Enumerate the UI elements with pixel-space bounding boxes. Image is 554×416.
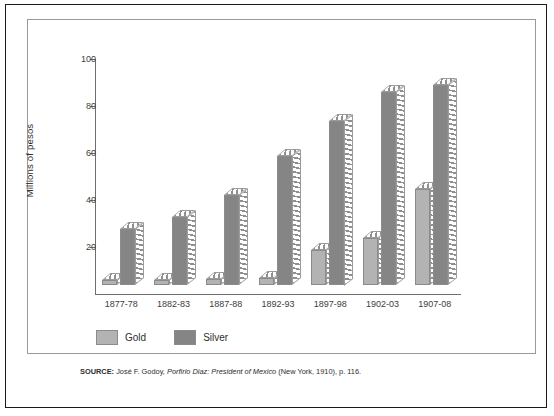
bar-gold-1882-83 bbox=[154, 280, 169, 285]
bar-face bbox=[277, 156, 292, 285]
bar-face bbox=[102, 280, 117, 285]
y-tick-label: 60 bbox=[56, 149, 96, 158]
bar-side-shadow bbox=[292, 149, 301, 285]
x-tick-label: 1897-98 bbox=[304, 299, 356, 310]
bar-silver-1877-78 bbox=[120, 229, 135, 285]
bar-face bbox=[120, 229, 135, 285]
bar-face bbox=[363, 238, 378, 285]
x-tick-label: 1902-03 bbox=[356, 299, 408, 310]
legend-label: Silver bbox=[203, 332, 228, 343]
legend-swatch-silver bbox=[174, 330, 196, 345]
bar-face bbox=[206, 279, 221, 285]
chart-legend: GoldSilver bbox=[96, 330, 228, 345]
y-tick-label-text: 20 bbox=[70, 243, 96, 252]
bar-silver-1902-03 bbox=[381, 92, 396, 285]
y-tick-label: 40 bbox=[56, 196, 96, 205]
bar-side-shadow bbox=[344, 113, 353, 285]
bar-side-shadow bbox=[396, 85, 405, 285]
source-publication: (New York, 1910), p. 116. bbox=[278, 367, 361, 376]
y-axis-title: Millions of pesos bbox=[24, 91, 35, 231]
source-author: José F. Godoy, bbox=[116, 367, 165, 376]
y-tick-label: 20 bbox=[56, 243, 96, 252]
bar-gold-1897-98 bbox=[311, 250, 326, 285]
bar-silver-1887-88 bbox=[224, 195, 239, 285]
bar-chart: 20406080100 Millions of pesos 1877-78188… bbox=[6, 5, 546, 407]
bar-face bbox=[329, 121, 344, 286]
bar-face bbox=[381, 92, 396, 285]
y-tick-label-text: 40 bbox=[70, 196, 96, 205]
bar-silver-1882-83 bbox=[172, 217, 187, 285]
y-tick-label-text: 100 bbox=[70, 55, 96, 64]
bar-gold-1892-93 bbox=[259, 278, 274, 285]
bar-face bbox=[311, 250, 326, 285]
x-tick-label: 1892-93 bbox=[252, 299, 304, 310]
y-tick-label-text: 80 bbox=[70, 102, 96, 111]
x-tick-label: 1907-08 bbox=[409, 299, 461, 310]
y-axis-line bbox=[95, 59, 96, 295]
x-tick-label: 1887-88 bbox=[200, 299, 252, 310]
x-tick-label: 1877-78 bbox=[95, 299, 147, 310]
bar-gold-1887-88 bbox=[206, 279, 221, 285]
bar-face bbox=[172, 217, 187, 285]
bar-gold-1907-08 bbox=[415, 189, 430, 285]
bar-silver-1892-93 bbox=[277, 156, 292, 285]
bar-face bbox=[259, 278, 274, 285]
source-note: SOURCE: José F. Godoy, Porfirio Diaz: Pr… bbox=[80, 367, 361, 377]
source-work: Porfirio Diaz: President of Mexico bbox=[167, 367, 276, 376]
bar-side-shadow bbox=[135, 222, 144, 285]
y-tick-label: 80 bbox=[56, 102, 96, 111]
y-tick-label-text: 60 bbox=[70, 149, 96, 158]
figure-frame: 20406080100 Millions of pesos 1877-78188… bbox=[5, 4, 547, 408]
bar-silver-1897-98 bbox=[329, 121, 344, 286]
source-label: SOURCE: bbox=[80, 367, 114, 376]
bar-face bbox=[415, 189, 430, 285]
x-axis-line bbox=[95, 294, 461, 295]
legend-label: Gold bbox=[125, 332, 146, 343]
bar-face bbox=[154, 280, 169, 285]
x-tick-label: 1882-83 bbox=[147, 299, 199, 310]
bar-gold-1902-03 bbox=[363, 238, 378, 285]
bar-face bbox=[433, 85, 448, 285]
bar-side-shadow bbox=[448, 78, 457, 285]
bar-face bbox=[224, 195, 239, 285]
legend-swatch-gold bbox=[96, 330, 118, 345]
bar-silver-1907-08 bbox=[433, 85, 448, 285]
bar-gold-1877-78 bbox=[102, 280, 117, 285]
legend-item-gold: Gold bbox=[96, 330, 146, 345]
bar-side-shadow bbox=[239, 187, 248, 285]
bar-side-shadow bbox=[187, 210, 196, 285]
y-tick-label: 100 bbox=[56, 55, 96, 64]
legend-item-silver: Silver bbox=[174, 330, 228, 345]
